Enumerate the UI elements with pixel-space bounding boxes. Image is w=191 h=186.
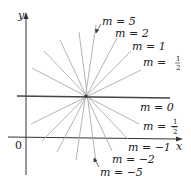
label-m-half-prefix: m =: [143, 56, 166, 69]
label-m2: m = 2: [115, 27, 149, 40]
origin-label: 0: [15, 139, 22, 152]
line-m-0: [17, 96, 170, 98]
pointer-m5-arrow-icon: [96, 29, 99, 33]
slope-family-diagram: y x 0 m = 5 m = 2 m = 1 m = 1 2 m = 0 m …: [0, 0, 191, 186]
x-axis-label: x: [176, 140, 183, 153]
label-m1: m = 1: [132, 40, 166, 53]
label-m-neg5: m = −5: [100, 166, 143, 179]
x-axis: [8, 137, 176, 139]
label-pointers: [94, 24, 101, 167]
label-m-neg-half-den: 2: [173, 128, 177, 136]
label-m-neg-half: m = − 1 2: [143, 118, 179, 136]
label-m-neg2: m = −2: [112, 153, 155, 166]
center-point: [84, 94, 87, 97]
label-m-neg-half-num: 1: [173, 118, 177, 126]
label-m-half: m = 1 2: [143, 55, 180, 72]
slope-lines: [31, 25, 141, 162]
label-m-half-num: 1: [176, 55, 180, 63]
y-axis-arrow-icon: [24, 12, 29, 19]
label-m-half-den: 2: [176, 64, 180, 72]
y-axis-label: y: [17, 9, 25, 22]
label-m0: m = 0: [140, 101, 174, 114]
